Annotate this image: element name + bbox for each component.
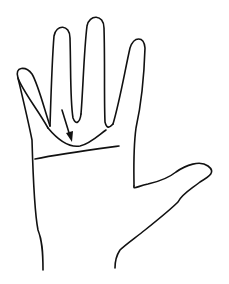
palm-crease-line — [35, 146, 119, 159]
middle-finger-outline — [81, 17, 113, 127]
thumb-outline — [115, 163, 212, 268]
arrow-shaft — [62, 110, 70, 136]
arrow-head — [66, 131, 73, 142]
palm-left-outline — [18, 78, 43, 270]
index-finger-outline — [113, 39, 145, 186]
ring-finger-outline — [50, 27, 81, 126]
hand-diagram — [0, 0, 229, 284]
girdle-curve — [48, 128, 106, 146]
